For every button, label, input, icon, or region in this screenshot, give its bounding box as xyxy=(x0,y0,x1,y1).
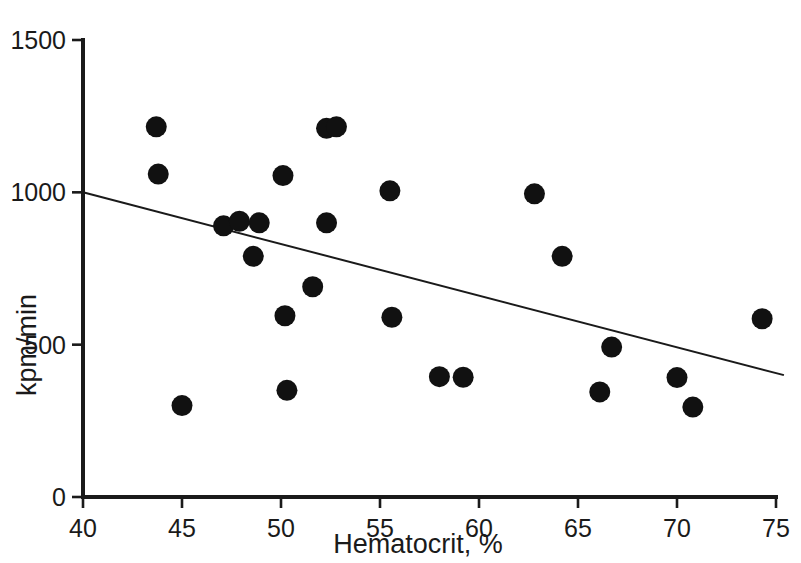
y-tick-label: 1000 xyxy=(10,178,66,206)
axes xyxy=(83,40,776,497)
regression-line-path xyxy=(83,192,784,375)
y-tick-label: 1500 xyxy=(10,26,66,54)
data-point xyxy=(172,395,193,416)
x-tick-label: 65 xyxy=(564,514,592,542)
data-point xyxy=(379,180,400,201)
data-point xyxy=(552,246,573,267)
data-point xyxy=(589,381,610,402)
y-tick-label: 0 xyxy=(52,483,66,511)
data-point xyxy=(276,380,297,401)
x-tick-label: 50 xyxy=(267,514,295,542)
data-point xyxy=(148,164,169,185)
data-point xyxy=(316,212,337,233)
data-point xyxy=(667,367,688,388)
axis-spine xyxy=(83,40,776,497)
data-point xyxy=(429,366,450,387)
x-tick-label: 75 xyxy=(762,514,790,542)
x-tick-label: 45 xyxy=(168,514,196,542)
data-point xyxy=(229,211,250,232)
data-point xyxy=(682,397,703,418)
x-axis-title: Hematocrit, % xyxy=(333,529,503,559)
data-point xyxy=(274,305,295,326)
x-tick-label: 70 xyxy=(663,514,691,542)
data-point xyxy=(524,183,545,204)
data-point xyxy=(249,212,270,233)
scatter-plot-figure: 0500100015004045505560657075 Hematocrit,… xyxy=(0,0,801,563)
data-point xyxy=(272,165,293,186)
data-point xyxy=(302,276,323,297)
data-point xyxy=(752,308,773,329)
axis-ticks xyxy=(72,40,776,508)
data-point xyxy=(601,337,622,358)
data-point xyxy=(453,367,474,388)
data-point xyxy=(243,246,264,267)
data-point xyxy=(381,307,402,328)
regression-line xyxy=(83,192,784,375)
data-point xyxy=(326,116,347,137)
plot-canvas: 0500100015004045505560657075 Hematocrit,… xyxy=(0,0,801,563)
x-tick-label: 40 xyxy=(69,514,97,542)
axis-tick-labels: 0500100015004045505560657075 xyxy=(10,26,790,542)
data-point xyxy=(146,116,167,137)
data-points xyxy=(146,116,773,417)
y-axis-title: kpm/min xyxy=(12,294,42,396)
